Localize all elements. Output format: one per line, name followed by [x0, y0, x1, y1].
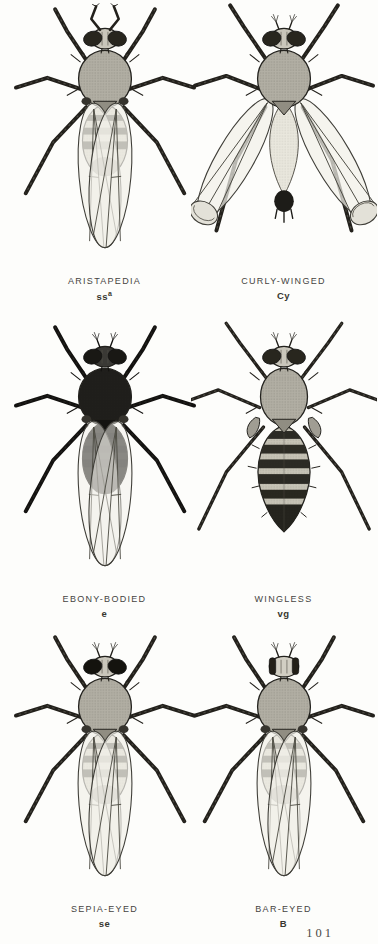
fly-illustration [12, 631, 198, 901]
figure-name: BAR-EYED [255, 904, 311, 914]
figure-inner: EBONY-BODIED e [10, 318, 199, 619]
figure-caption: SEPIA-EYED se [71, 901, 138, 929]
gene-symbol: e [63, 608, 147, 619]
figure-bar-eyed: BAR-EYED B [189, 628, 378, 944]
book-page: ARISTAPEDIA ssa CURLY-WINGED Cy EBONY-BO… [0, 0, 378, 944]
fly-illustration [191, 3, 377, 273]
figure-name: ARISTAPEDIA [68, 276, 141, 286]
figure-aristapedia: ARISTAPEDIA ssa [0, 0, 189, 318]
gene-symbol-text: e [102, 608, 108, 619]
figure-caption: WINGLESS vg [255, 591, 313, 619]
figure-name: WINGLESS [255, 594, 313, 604]
gene-symbol-text: B [280, 918, 287, 929]
gene-symbol-superscript: a [108, 290, 112, 297]
figure-inner: BAR-EYED B [189, 628, 378, 929]
gene-symbol: se [71, 918, 138, 929]
fly-illustration [12, 321, 198, 591]
fly-illustration [191, 321, 377, 591]
figure-inner: ARISTAPEDIA ssa [10, 0, 199, 302]
gene-symbol: B [255, 918, 311, 929]
fly-illustration [12, 3, 198, 273]
figure-inner: WINGLESS vg [189, 318, 378, 619]
figure-name: EBONY-BODIED [63, 594, 147, 604]
page-number: 101 [306, 926, 334, 941]
figure-wingless: WINGLESS vg [189, 318, 378, 628]
figure-name: CURLY-WINGED [241, 276, 326, 286]
figure-sepia-eyed: SEPIA-EYED se [0, 628, 189, 944]
gene-symbol: ssa [68, 290, 141, 302]
fly-illustration [191, 631, 377, 901]
figure-ebony-bodied: EBONY-BODIED e [0, 318, 189, 628]
figure-caption: ARISTAPEDIA ssa [68, 273, 141, 302]
figure-curly-winged: CURLY-WINGED Cy [189, 0, 378, 318]
figure-name: SEPIA-EYED [71, 904, 138, 914]
gene-symbol: vg [255, 608, 313, 619]
figure-inner: SEPIA-EYED se [10, 628, 199, 929]
figure-inner: CURLY-WINGED Cy [189, 0, 378, 301]
gene-symbol-text: vg [277, 608, 289, 619]
gene-symbol-text: Cy [277, 290, 290, 301]
gene-symbol-text: se [99, 918, 111, 929]
figure-caption: EBONY-BODIED e [63, 591, 147, 619]
gene-symbol-text: ss [97, 291, 109, 302]
gene-symbol: Cy [241, 290, 326, 301]
figure-caption: CURLY-WINGED Cy [241, 273, 326, 301]
figure-caption: BAR-EYED B [255, 901, 311, 929]
